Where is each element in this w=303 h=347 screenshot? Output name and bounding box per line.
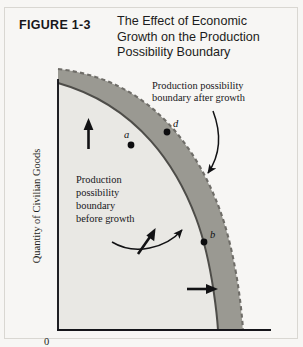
figure-number-label: FIGURE 1-3	[19, 18, 91, 32]
chart-area: a d b Production possibility boundary af…	[0, 66, 303, 347]
annotation-before-growth-line-4: before growth	[76, 213, 135, 224]
origin-label: 0	[44, 336, 49, 347]
annotation-before-growth-line-2: possibility	[76, 187, 120, 198]
figure-title: The Effect of Economic Growth on the Pro…	[117, 14, 292, 61]
figure-container: FIGURE 1-3 The Effect of Economic Growth…	[0, 0, 303, 347]
annotation-after-growth-line-2: boundary after growth	[152, 92, 246, 103]
data-point-a	[128, 142, 135, 149]
data-point-d-label: d	[173, 118, 179, 129]
figure-title-line-1: The Effect of Economic	[117, 14, 292, 30]
annotation-after-growth-arrow	[208, 111, 218, 173]
annotation-after-growth-line-1: Production possibility	[152, 80, 244, 91]
figure-header: FIGURE 1-3 The Effect of Economic Growth…	[0, 10, 303, 68]
annotation-before-growth-line-1: Production	[76, 174, 122, 185]
figure-title-line-3: Possibility Boundary	[117, 45, 292, 61]
y-axis-label: Quantity of Civilian Goods	[31, 149, 42, 264]
data-point-b-label: b	[210, 229, 215, 240]
data-point-a-label: a	[124, 129, 129, 140]
figure-title-line-2: Growth on the Production	[117, 30, 292, 46]
data-point-b	[201, 239, 208, 246]
annotation-before-growth-line-3: boundary	[76, 200, 116, 211]
data-point-d	[164, 129, 171, 136]
ppf-chart: a d b Production possibility boundary af…	[0, 66, 303, 347]
